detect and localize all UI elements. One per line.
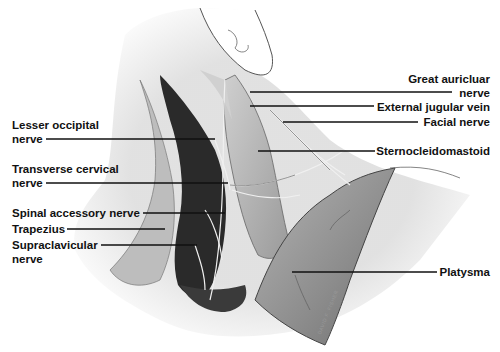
label-supraclavicular-nerve: Supraclavicular nerve [12, 238, 98, 266]
label-great-auricular-nerve: Great auricluar nerve [408, 72, 490, 100]
label-line-2: nerve [12, 132, 99, 146]
label-line-1: Lesser occipital [12, 118, 99, 132]
label-sternocleidomastoid: Sternocleidomastoid [376, 144, 490, 158]
label-line-2: nerve [12, 252, 98, 266]
label-platysma: Platysma [439, 265, 490, 279]
label-line-2: nerve [12, 176, 119, 190]
label-lesser-occipital-nerve: Lesser occipital nerve [12, 118, 99, 146]
label-spinal-accessory-nerve: Spinal accessory nerve [12, 206, 140, 220]
label-transverse-cervical-nerve: Transverse cervical nerve [12, 162, 119, 190]
label-line-1: Great auricluar [408, 72, 490, 86]
label-external-jugular-vein: External jugular vein [377, 100, 490, 114]
label-line-2: nerve [408, 86, 490, 100]
anatomy-figure: Lesser occipital nerve Transverse cervic… [0, 0, 500, 352]
label-facial-nerve: Facial nerve [424, 115, 490, 129]
label-line-1: Supraclavicular [12, 238, 98, 252]
label-trapezius: Trapezius [12, 222, 65, 236]
label-line-1: Transverse cervical [12, 162, 119, 176]
